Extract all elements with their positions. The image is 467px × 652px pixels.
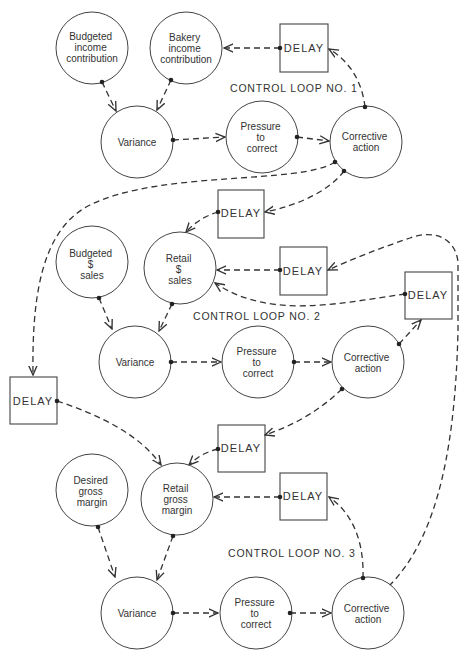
link-variance-to-pressure-1 xyxy=(173,137,225,140)
link-actual-to-variance-2 xyxy=(159,304,172,331)
link-corrective2-to-delay-3in xyxy=(265,389,342,435)
loop-3: DELAY DELAY Desired gross margin Retail … xyxy=(10,377,404,649)
delay-box-loop1-label: DELAY xyxy=(284,42,324,54)
link-corrective-to-delay-1 xyxy=(329,49,365,107)
node-variance-loop3-label: Variance xyxy=(118,608,157,619)
node-variance-loop1-label: Variance xyxy=(118,137,157,148)
delay-box-loop2-label: DELAY xyxy=(283,265,323,277)
link-left-delay-to-retail-margin xyxy=(57,401,161,465)
link-corrective2-to-delay-right xyxy=(399,320,421,344)
link-actual-to-variance-1 xyxy=(157,80,171,110)
loop-1: Budgeted income contribution Bakery inco… xyxy=(56,12,402,178)
link-corrective1-to-delay-2in xyxy=(265,171,344,212)
delay-box-loop2-right-label: DELAY xyxy=(408,289,448,301)
loop-1-label: CONTROL LOOP NO. 1 xyxy=(230,82,358,94)
link-budgeted-to-variance-1 xyxy=(102,82,116,111)
node-retail-gross-margin-label: Retail gross margin xyxy=(162,483,193,516)
link-corrective3-to-delay3 xyxy=(329,497,363,578)
control-loop-diagram: Budgeted income contribution Bakery inco… xyxy=(0,0,467,652)
node-variance-loop2-label: Variance xyxy=(116,357,155,368)
loop-3-label: CONTROL LOOP NO. 3 xyxy=(228,547,356,559)
delay-box-loop3-label: DELAY xyxy=(283,490,323,502)
link-desired-to-variance-3 xyxy=(98,527,115,577)
node-desired-gross-margin-label: Desired gross margin xyxy=(73,475,110,508)
link-retail-to-variance-3 xyxy=(157,536,173,580)
delay-box-loop3-in-label: DELAY xyxy=(221,442,261,454)
link-budgeted-to-variance-2 xyxy=(99,298,112,329)
link-pressure-to-corrective-1 xyxy=(297,137,329,141)
delay-box-loop2-in-label: DELAY xyxy=(221,207,261,219)
loop-2-label: CONTROL LOOP NO. 2 xyxy=(193,310,321,322)
link-delay-3in-to-retail-margin xyxy=(189,449,218,465)
delay-box-loop3-left-label: DELAY xyxy=(13,395,53,407)
link-delay-2in-to-retail-sales xyxy=(186,212,218,232)
